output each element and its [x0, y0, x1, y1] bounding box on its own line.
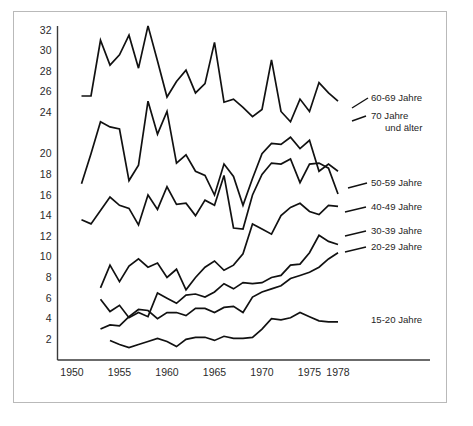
series-labels: 60-69 Jahre70 Jahreund älter50-59 Jahre4… [371, 92, 423, 325]
y-tick-label: 16 [40, 189, 52, 201]
series-line [82, 159, 339, 229]
series-label: 50-59 Jahre [371, 177, 422, 188]
y-tick-label: 32 [40, 24, 52, 36]
x-tick-label: 1955 [108, 366, 132, 378]
y-tick-label: 6 [46, 292, 52, 304]
x-tick-label: 1978 [326, 366, 350, 378]
y-tick-label: 28 [40, 65, 52, 77]
x-tick-label: 1950 [60, 366, 84, 378]
series-line [110, 313, 338, 348]
x-tick-label: 1975 [298, 366, 322, 378]
label-leader [345, 231, 366, 236]
label-leader [352, 98, 368, 108]
y-tick-label: 8 [46, 271, 52, 283]
series-label: 40-49 Jahre [371, 201, 422, 212]
series-label: 15-20 Jahre [371, 314, 422, 325]
x-axis: 1950195519601965197019751978 [58, 360, 431, 378]
label-leader [352, 116, 366, 121]
y-tick-label: 26 [40, 85, 52, 97]
series-label: und älter [385, 122, 423, 133]
y-tick-label: 20 [40, 147, 52, 159]
y-axis: 24681012141618202426283032 [40, 24, 58, 360]
series-label: 70 Jahre [371, 110, 408, 121]
y-tick-label: 2 [46, 333, 52, 345]
label-leader [345, 207, 366, 212]
series-line [82, 26, 339, 122]
y-tick-label: 4 [46, 312, 52, 324]
line-chart: 24681012141618202426283032 1950195519601… [0, 0, 473, 426]
series-label: 20-29 Jahre [371, 241, 422, 252]
series-line [101, 203, 339, 290]
series-line [82, 101, 339, 205]
series-label: 30-39 Jahre [371, 225, 422, 236]
label-leader-lines [345, 98, 368, 252]
y-tick-label: 18 [40, 168, 52, 180]
y-tick-label: 10 [40, 250, 52, 262]
series-label: 60-69 Jahre [371, 92, 422, 103]
series-lines [82, 26, 339, 348]
y-tick-label: 12 [40, 230, 52, 242]
label-leader [345, 247, 366, 252]
y-tick-label: 14 [40, 209, 52, 221]
x-tick-label: 1970 [250, 366, 274, 378]
y-tick-label: 24 [40, 106, 52, 118]
x-tick-label: 1965 [203, 366, 227, 378]
chart-container: 24681012141618202426283032 1950195519601… [0, 0, 473, 426]
x-tick-label: 1960 [155, 366, 179, 378]
series-line [101, 253, 339, 329]
series-line [101, 235, 339, 318]
label-leader [348, 183, 367, 188]
y-tick-label: 30 [40, 44, 52, 56]
